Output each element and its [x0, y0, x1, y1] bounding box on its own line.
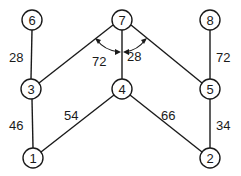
node-8: 8 [200, 10, 220, 30]
edge-7-5 [131, 25, 202, 83]
svg-text:1: 1 [29, 151, 36, 166]
svg-text:5: 5 [206, 82, 213, 97]
weight-6-3: 28 [9, 50, 23, 65]
weight-4-2: 66 [161, 108, 175, 123]
svg-text:4: 4 [118, 82, 125, 97]
weight-3-1: 46 [9, 118, 23, 133]
svg-text:7: 7 [118, 13, 125, 28]
angle-label-72: 72 [92, 54, 106, 69]
svg-text:8: 8 [206, 13, 213, 28]
node-2: 2 [200, 148, 220, 168]
node-5: 5 [200, 79, 220, 99]
weight-5-2: 34 [216, 118, 230, 133]
edge-6-3 [31, 30, 32, 79]
node-4: 4 [112, 79, 132, 99]
svg-text:2: 2 [206, 151, 213, 166]
weighted-graph-diagram: 28 72 46 54 66 34 72 28 6 7 8 [0, 0, 241, 176]
edge-4-1 [41, 95, 114, 152]
svg-text:3: 3 [27, 82, 34, 97]
node-6: 6 [22, 10, 42, 30]
weight-8-5: 72 [216, 50, 230, 65]
node-3: 3 [21, 79, 41, 99]
angle-label-28: 28 [127, 49, 141, 64]
node-1: 1 [23, 148, 43, 168]
svg-text:6: 6 [28, 13, 35, 28]
node-7: 7 [112, 10, 132, 30]
arrowhead-icon [115, 49, 121, 55]
edge-4-2 [130, 95, 202, 152]
edge-3-1 [32, 99, 33, 148]
weight-4-1: 54 [64, 108, 78, 123]
